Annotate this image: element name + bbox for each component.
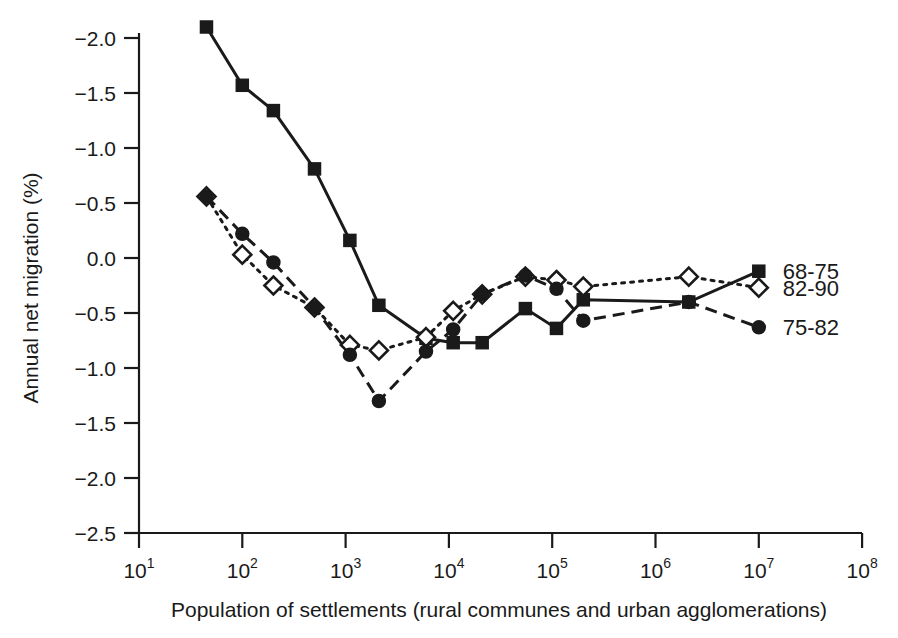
y-tick-label: −2.0: [75, 27, 116, 50]
data-point-marker: [372, 395, 385, 408]
plot-area: −2.0−1.5−1.0−0.50.0−0.5−1.0−1.5−2.0−2.5 …: [0, 0, 898, 638]
data-point-marker: [519, 269, 532, 282]
data-point-marker: [236, 79, 248, 91]
data-point-marker: [233, 246, 251, 264]
y-tick-label: −2.0: [75, 467, 116, 490]
x-tick-label: 108: [847, 555, 878, 582]
data-point-marker: [267, 256, 280, 269]
data-point-marker: [447, 323, 460, 336]
data-point-marker: [370, 341, 388, 359]
chart-figure: −2.0−1.5−1.0−0.50.0−0.5−1.0−1.5−2.0−2.5 …: [0, 0, 898, 638]
x-tick-label: 105: [537, 555, 568, 582]
data-point-marker: [574, 278, 592, 296]
data-point-marker: [267, 105, 279, 117]
data-point-marker: [308, 301, 321, 314]
legend-label-75-82: 75-82: [783, 315, 839, 340]
data-point-marker: [309, 163, 321, 175]
x-tick-label: 102: [227, 555, 258, 582]
data-point-marker: [577, 314, 590, 327]
y-tick-labels: −2.0−1.5−1.0−0.50.0−0.5−1.0−1.5−2.0−2.5: [75, 27, 116, 545]
data-point-marker: [519, 303, 531, 315]
data-point-marker: [680, 268, 698, 286]
data-point-marker: [753, 265, 765, 277]
x-tick-label: 103: [330, 555, 361, 582]
data-point-marker: [200, 190, 213, 203]
x-tick-label: 104: [433, 555, 464, 582]
data-point-marker: [236, 227, 249, 240]
data-point-marker: [476, 288, 489, 301]
y-tick-marks: [124, 38, 139, 533]
y-tick-label: −0.5: [75, 192, 116, 215]
x-tick-labels: 101102103104105106107108: [123, 555, 877, 582]
data-point-marker: [550, 282, 563, 295]
data-point-marker: [476, 337, 488, 349]
x-axis-title: Population of settlements (rural commune…: [171, 598, 827, 621]
y-tick-label: −1.0: [75, 137, 116, 160]
data-point-marker: [419, 345, 432, 358]
y-tick-label: 0.0: [87, 247, 116, 270]
x-tick-label: 106: [640, 555, 671, 582]
data-point-marker: [344, 234, 356, 246]
data-point-marker: [200, 21, 212, 33]
y-tick-label: −0.5: [75, 302, 116, 325]
data-point-marker: [550, 322, 562, 334]
x-tick-label: 101: [123, 555, 154, 582]
x-tick-label: 107: [743, 555, 774, 582]
legend: 68-7582-9075-82: [783, 259, 839, 340]
data-point-marker: [343, 348, 356, 361]
y-tick-label: −1.5: [75, 82, 116, 105]
data-point-marker: [752, 321, 765, 334]
data-point-marker: [447, 337, 459, 349]
legend-label-82-90: 82-90: [783, 276, 839, 301]
series-line-82-90: [207, 196, 759, 350]
x-tick-marks: [139, 533, 862, 548]
data-markers-group: [197, 21, 767, 408]
y-tick-label: −1.5: [75, 412, 116, 435]
data-point-marker: [373, 299, 385, 311]
y-axis-title: Annual net migration (%): [19, 172, 42, 403]
y-tick-label: −2.5: [75, 522, 116, 545]
data-point-marker: [682, 296, 695, 309]
y-tick-label: −1.0: [75, 357, 116, 380]
data-point-marker: [750, 279, 768, 297]
